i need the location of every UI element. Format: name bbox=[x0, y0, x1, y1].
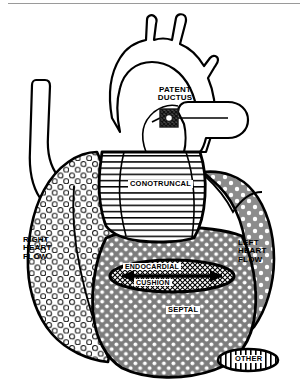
heart-illustration bbox=[0, 0, 306, 387]
cardiac-diagram-figure: PATENT DUCTUS CONOTRUNCAL RIGHT HEART FL… bbox=[0, 0, 306, 387]
region-conotruncal bbox=[99, 152, 205, 242]
patent-ductus-leader-left bbox=[152, 118, 160, 122]
region-endocardial-cushion bbox=[110, 260, 234, 292]
pulmonary-artery-path bbox=[178, 102, 248, 152]
heart-chambers-group bbox=[28, 109, 278, 377]
region-other bbox=[218, 349, 278, 371]
